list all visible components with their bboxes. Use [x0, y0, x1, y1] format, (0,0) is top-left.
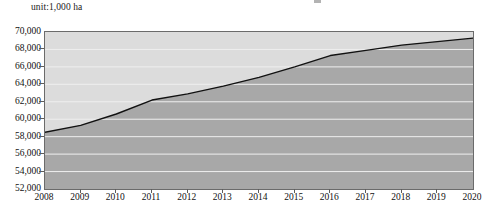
- y-tick-label: 54,000: [1, 166, 41, 176]
- x-tick-mark: [436, 189, 437, 193]
- plot-area: [44, 31, 474, 190]
- x-tick-mark: [365, 189, 366, 193]
- image-artifact-speck: [314, 0, 321, 3]
- x-tick-mark: [258, 189, 259, 193]
- x-tick-label: 2020: [449, 191, 489, 203]
- y-tick-label: 64,000: [1, 78, 41, 88]
- y-tick-mark: [39, 48, 44, 49]
- x-tick-mark: [115, 189, 116, 193]
- x-tick-mark: [294, 189, 295, 193]
- y-tick-label: 66,000: [1, 61, 41, 71]
- y-tick-label: 68,000: [1, 43, 41, 53]
- y-tick-label: 60,000: [1, 113, 41, 123]
- x-tick-mark: [329, 189, 330, 193]
- y-tick-label: 56,000: [1, 148, 41, 158]
- y-tick-mark: [39, 66, 44, 67]
- plot-svg: [45, 32, 473, 189]
- x-tick-mark: [80, 189, 81, 193]
- x-tick-mark: [151, 189, 152, 193]
- y-tick-mark: [39, 171, 44, 172]
- x-axis: 2008200920102011201220132014201520162017…: [0, 191, 489, 207]
- y-tick-mark: [39, 153, 44, 154]
- x-tick-mark: [401, 189, 402, 193]
- y-tick-label: 58,000: [1, 131, 41, 141]
- y-tick-mark: [39, 118, 44, 119]
- x-tick-mark: [222, 189, 223, 193]
- x-tick-mark: [187, 189, 188, 193]
- y-tick-mark: [39, 136, 44, 137]
- area-chart: unit:1,000 ha 52,00054,00056,00058,00060…: [0, 0, 489, 212]
- y-tick-label: 70,000: [1, 26, 41, 36]
- y-tick-mark: [39, 83, 44, 84]
- y-tick-label: 62,000: [1, 96, 41, 106]
- y-axis: 52,00054,00056,00058,00060,00062,00064,0…: [0, 0, 41, 212]
- y-tick-mark: [39, 101, 44, 102]
